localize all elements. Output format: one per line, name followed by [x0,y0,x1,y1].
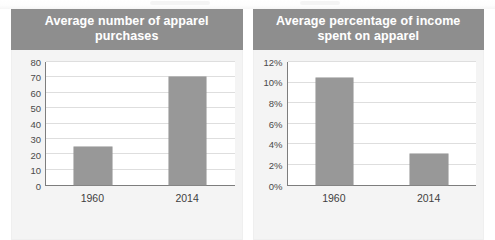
y-axis-tick-label: 12% [263,57,282,67]
gridline [46,123,235,124]
gridline [46,107,235,108]
y-axis-tick-label: 4% [269,140,283,150]
y-axis-tick-label: 0 [36,181,41,191]
chart-panel-income-spent-on-apparel: Average percentage of income spent on ap… [253,9,485,240]
gridline [46,92,235,93]
chart-title-text: Average number of apparel purchases [17,14,237,44]
plot-with-y-axis: 01020304050607080 [15,62,235,186]
y-axis-tick-label: 20 [30,150,41,160]
chart-panel-apparel-purchases: Average number of apparel purchases 0102… [11,9,243,240]
x-axis-tick-label: 2014 [417,193,440,204]
y-axis-tick-label: 2% [269,161,283,171]
bar-1960 [74,147,112,185]
y-axis-tick-label: 0% [269,181,283,191]
x-axis-tick-label: 2014 [175,193,198,204]
plot-with-y-axis: 0%2%4%6%8%10%12% [257,62,477,186]
y-axis-tick-label: 30 [30,135,41,145]
y-axis-tick-label: 70 [30,73,41,83]
gridline [288,61,477,62]
scan-smudge [300,1,340,5]
chart-panels-container: Average number of apparel purchases 0102… [0,9,495,240]
scan-smudge [150,1,210,5]
chart-body-apparel-purchases: 01020304050607080 19602014 [11,50,243,240]
y-axis-tick-label: 80 [30,57,41,67]
y-axis-tick-label: 10% [263,78,282,88]
y-axis-apparel-purchases: 01020304050607080 [15,62,45,186]
x-axis-tick-label: 1960 [81,193,104,204]
x-axis-income-spent-on-apparel: 19602014 [287,186,477,214]
plot-area-income-spent-on-apparel [287,62,477,186]
x-axis-tick-label: 1960 [322,193,345,204]
chart-title-income-spent-on-apparel: Average percentage of income spent on ap… [253,9,485,50]
chart-title-apparel-purchases: Average number of apparel purchases [11,9,243,50]
bar-2014 [410,154,448,185]
scan-artifact-strip [0,0,495,9]
chart-body-income-spent-on-apparel: 0%2%4%6%8%10%12% 19602014 [253,50,485,240]
y-axis-tick-label: 10 [30,166,41,176]
gridline [46,76,235,77]
y-axis-tick-label: 60 [30,88,41,98]
gridline [46,138,235,139]
y-axis-income-spent-on-apparel: 0%2%4%6%8%10%12% [257,62,287,186]
y-axis-tick-label: 8% [269,99,283,109]
x-axis-apparel-purchases: 19602014 [45,186,235,214]
bar-2014 [169,77,207,185]
chart-title-text: Average percentage of income spent on ap… [259,14,479,44]
gridline [46,61,235,62]
plot-area-apparel-purchases [45,62,235,186]
y-axis-tick-label: 6% [269,119,283,129]
y-axis-tick-label: 50 [30,104,41,114]
y-axis-tick-label: 40 [30,119,41,129]
bar-1960 [316,78,354,185]
